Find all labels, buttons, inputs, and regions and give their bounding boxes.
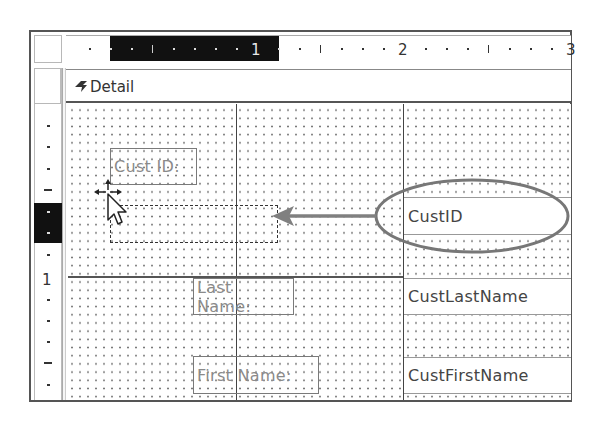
ruler-tick — [47, 125, 50, 127]
ruler-tick — [551, 48, 553, 50]
ruler-tick — [530, 48, 532, 50]
ruler-tick — [194, 48, 196, 50]
ruler-tick — [152, 45, 153, 53]
drop-target-outline — [110, 205, 278, 243]
ruler-tick — [47, 299, 50, 301]
vertical-ruler[interactable] — [34, 104, 62, 400]
ruler-tick — [47, 168, 50, 170]
ruler-tick — [320, 45, 321, 53]
ruler-tick — [44, 189, 52, 191]
ruler-tick — [467, 48, 469, 50]
ruler-tick — [215, 48, 217, 50]
grid-line-vertical-2 — [403, 104, 404, 400]
first-name-label[interactable]: First Name: — [193, 356, 319, 394]
form-selector-box[interactable] — [34, 35, 62, 63]
custfirstname-field[interactable]: CustFirstName — [404, 357, 571, 394]
custid-field[interactable]: CustID — [404, 197, 571, 235]
section-selector-box[interactable] — [34, 68, 62, 104]
ruler-tick — [488, 45, 489, 53]
ruler-tick — [47, 146, 50, 148]
ruler-tick — [383, 48, 385, 50]
ruler-tick — [89, 48, 91, 50]
ruler-label-3: 3 — [566, 43, 576, 58]
detail-section-bar[interactable] — [66, 70, 571, 103]
ruler-tick — [47, 341, 50, 343]
ruler-tick — [131, 48, 133, 50]
ruler-tick — [278, 48, 280, 50]
ruler-tick — [362, 48, 364, 50]
last-name-label[interactable]: Last Name: — [193, 278, 294, 315]
ruler-tick — [47, 384, 50, 386]
ruler-tick — [47, 254, 50, 256]
ruler-tick — [446, 48, 448, 50]
custlastname-field[interactable]: CustLastName — [404, 278, 571, 315]
ruler-label-1: 1 — [251, 43, 261, 58]
vertical-ruler-selection-highlight — [34, 203, 62, 243]
ruler-tick — [47, 211, 50, 213]
ruler-tick — [47, 232, 50, 234]
ruler-tick — [236, 48, 238, 50]
ruler-tick — [509, 48, 511, 50]
ruler-tick — [110, 48, 112, 50]
ruler-tick — [44, 362, 52, 364]
pointer-with-move-arrows-icon — [92, 178, 132, 228]
vertical-ruler-label-1: 1 — [42, 273, 52, 288]
section-collapse-arrow-icon[interactable] — [74, 80, 88, 94]
ruler-tick — [341, 48, 343, 50]
ruler-tick — [47, 320, 50, 322]
ruler-tick — [425, 48, 427, 50]
detail-section-label: Detail — [90, 78, 134, 96]
ruler-tick — [299, 48, 301, 50]
ruler-label-2: 2 — [398, 43, 408, 58]
ruler-tick — [173, 48, 175, 50]
